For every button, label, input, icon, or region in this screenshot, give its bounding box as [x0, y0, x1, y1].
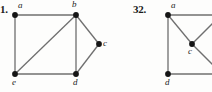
graph-edge — [192, 21, 212, 44]
graph-vertex-a — [165, 12, 171, 18]
figure-32-edges — [0, 0, 212, 92]
figure-32-vertex-label-c: c — [188, 47, 192, 56]
figure-32: 32. a c d — [0, 0, 212, 92]
figure-32-number: 32. — [133, 3, 146, 15]
figure-pair-screenshot: 1. a b c d e 32. a c d — [0, 0, 212, 92]
graph-edge — [168, 15, 192, 44]
graph-edge — [192, 44, 212, 67]
figure-32-vertex-label-a: a — [171, 1, 176, 10]
figure-32-vertex-label-d: d — [165, 78, 170, 87]
